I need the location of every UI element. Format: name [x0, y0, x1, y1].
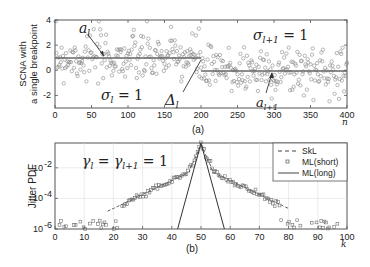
y-axis-label-a-line2: a single breakpoint	[28, 24, 39, 104]
legend-label-skl: SkL	[302, 146, 317, 156]
x-tick-label: 0	[52, 110, 57, 120]
y-tick-exponent: -6	[44, 220, 52, 230]
x-tick-label: 50	[196, 232, 206, 242]
annotation-sigma-l: σl = 1	[101, 87, 143, 105]
figure: 050100150200250300350400420-2 SCNA with …	[0, 0, 370, 267]
legend-label-ml-long: ML(long)	[302, 168, 336, 178]
x-tick-label: 40	[167, 232, 177, 242]
y-tick-exponent: -4	[44, 189, 52, 199]
y-axis-label-b: Jitter PDF	[27, 164, 38, 208]
panel-b: 010203040506070809010010-210-410-6 Jitte…	[27, 141, 355, 254]
x-axis-label-a: n	[342, 117, 348, 127]
y-tick-exponent: -2	[44, 159, 52, 169]
x-tick-label: 30	[138, 232, 148, 242]
x-tick-label: 250	[230, 110, 245, 120]
x-axis-label-b: k	[341, 239, 346, 249]
x-tick-label: 0	[52, 232, 57, 242]
x-tick-label: 70	[254, 232, 264, 242]
y-tick-label: 0	[46, 65, 51, 75]
y-axis-label-a-line1: SCNA with	[17, 41, 28, 86]
legend: SkL ML(short) ML(long)	[273, 143, 347, 181]
x-tick-label: 200	[193, 110, 208, 120]
y-tick-label: 4	[46, 15, 51, 25]
x-tick-label: 60	[225, 232, 235, 242]
annotation-sigma-l1: σl+1 = 1	[253, 27, 308, 45]
panel-a: 050100150200250300350400420-2 SCNA with …	[17, 15, 355, 135]
x-tick-label: 80	[284, 232, 294, 242]
y-tick-label: 10	[33, 224, 43, 234]
x-tick-label: 20	[108, 232, 118, 242]
x-tick-label: 10	[79, 232, 89, 242]
x-tick-label: 150	[157, 110, 172, 120]
y-tick-label: -2	[43, 90, 51, 100]
y-tick-label: 2	[46, 40, 51, 50]
legend-label-ml-short: ML(short)	[302, 157, 339, 167]
x-tick-label: 90	[313, 232, 323, 242]
x-tick-label: 350	[303, 110, 318, 120]
x-tick-label: 100	[120, 110, 135, 120]
caption-b: (b)	[186, 243, 198, 254]
x-tick-label: 50	[86, 110, 96, 120]
caption-a: (a)	[192, 124, 204, 135]
